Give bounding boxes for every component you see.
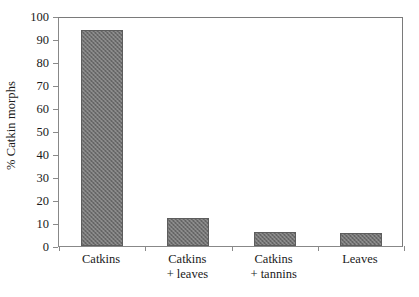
x-axis-category-label: Catkins+ leaves [144,252,230,282]
bars-layer [59,18,402,246]
x-axis-tick-mark [59,246,60,251]
y-axis-tick-label: 90 [37,33,54,46]
x-axis-category-label-line1: Catkins [255,252,293,266]
y-axis-tick-label: 70 [37,79,54,92]
y-axis-tick-label: 40 [37,148,54,161]
x-axis-category-label-line2: + leaves [144,267,230,282]
x-axis-category-label-line1: Leaves [342,252,377,266]
plot-area [58,17,403,247]
y-axis-tick-label: 80 [37,56,54,69]
y-axis-tick-label: 30 [37,171,54,184]
x-axis-category-label: Leaves [317,252,403,267]
x-axis-tick-mark [232,246,233,251]
y-axis-tick-label: 20 [37,194,54,207]
y-axis-tick-label: 0 [43,240,53,253]
bar [340,233,382,246]
x-axis-tick-mark [404,246,405,251]
y-axis-tick-label: 60 [37,102,54,115]
x-axis-category-label-line1: Catkins [82,252,120,266]
x-axis-category-label-line2: + tannins [231,267,317,282]
x-axis-category-label: Catkins+ tannins [231,252,317,282]
x-axis-labels: CatkinsCatkins+ leavesCatkins+ tanninsLe… [58,252,403,297]
y-axis-ticks: 1009080706050403020100 [0,17,58,247]
x-axis-category-label: Catkins [58,252,144,267]
x-axis-category-label-line1: Catkins [168,252,206,266]
bar [167,218,209,246]
x-axis-tick-mark [145,246,146,251]
bar-chart: % Catkin morphs 1009080706050403020100 C… [0,0,419,297]
y-axis-tick-label: 100 [30,10,53,23]
y-axis-tick-label: 10 [37,217,54,230]
bar [254,232,296,246]
y-axis-tick-label: 50 [37,125,54,138]
bar [81,30,123,246]
x-axis-tick-mark [318,246,319,251]
